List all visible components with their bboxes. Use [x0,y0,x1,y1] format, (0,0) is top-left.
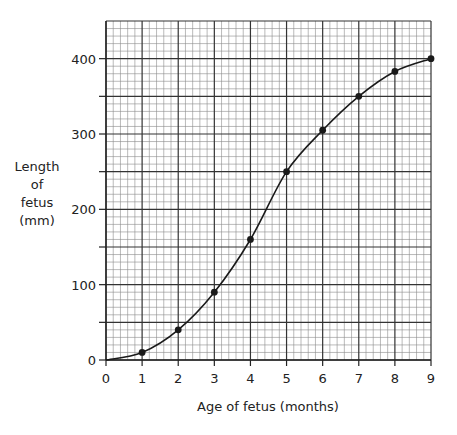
data-point [139,349,146,356]
data-point [391,68,398,75]
y-axis-title-line: of [6,176,68,194]
x-tick-label: 0 [102,371,110,386]
data-point [283,168,290,175]
data-point [428,55,435,62]
data-point [247,236,254,243]
y-axis-ticks: 0100200300400 [71,52,106,368]
y-axis-title-line: Length [6,158,68,176]
data-point [319,127,326,134]
axes [106,21,431,360]
x-tick-label: 3 [210,371,218,386]
x-tick-label: 8 [391,371,399,386]
grid-major-lines [106,21,431,360]
x-axis-ticks: 0123456789 [102,360,435,386]
data-point [355,93,362,100]
x-tick-label: 5 [282,371,290,386]
y-axis-title-line: fetus [6,194,68,212]
grid-minor-lines [106,21,431,360]
x-tick-label: 2 [174,371,182,386]
line-chart: 0123456789 0100200300400 Age of fetus (m… [0,0,457,435]
x-tick-label: 4 [246,371,254,386]
x-tick-label: 6 [319,371,327,386]
y-tick-label: 200 [71,202,96,217]
y-axis-title: Length of fetus (mm) [6,158,68,230]
y-tick-label: 300 [71,127,96,142]
data-point [211,289,218,296]
x-tick-label: 7 [355,371,363,386]
data-point [175,326,182,333]
y-tick-label: 100 [71,278,96,293]
y-axis-title-line: (mm) [6,212,68,230]
x-tick-label: 1 [138,371,146,386]
y-tick-label: 400 [71,52,96,67]
y-tick-label: 0 [88,353,96,368]
x-tick-label: 9 [427,371,435,386]
x-axis-title: Age of fetus (months) [197,399,339,414]
